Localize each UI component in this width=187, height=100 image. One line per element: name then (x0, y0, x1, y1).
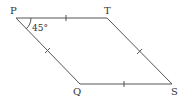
vertex-label-q: Q (73, 86, 81, 97)
vertex-label-s: S (171, 86, 178, 97)
angle-arc-p (26, 18, 31, 29)
angle-label: 45° (32, 23, 48, 33)
vertex-label-t: T (104, 5, 111, 16)
vertex-label-p: P (10, 5, 17, 16)
rhombus-diagram: 45° P T Q S (0, 0, 187, 100)
